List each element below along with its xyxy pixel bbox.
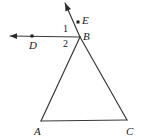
segment-ac: [41, 120, 127, 121]
segment-ab: [41, 37, 80, 121]
label-angle-2: 2: [63, 39, 68, 49]
label-point-e: E: [82, 15, 89, 26]
label-point-b: B: [83, 31, 90, 42]
segment-bc: [80, 37, 127, 120]
label-point-a: A: [34, 126, 41, 137]
label-point-c: C: [126, 126, 133, 137]
label-angle-1: 1: [63, 24, 68, 34]
point-marker-d: [31, 35, 34, 38]
ray-bd: [10, 36, 80, 37]
point-marker-e: [77, 21, 80, 24]
arrowhead-be: [65, 3, 71, 12]
geometry-figure: A B C D E 1 2: [0, 0, 143, 140]
label-point-d: D: [29, 40, 37, 51]
figure-canvas: [0, 0, 143, 140]
arrowhead-bd: [10, 33, 17, 39]
